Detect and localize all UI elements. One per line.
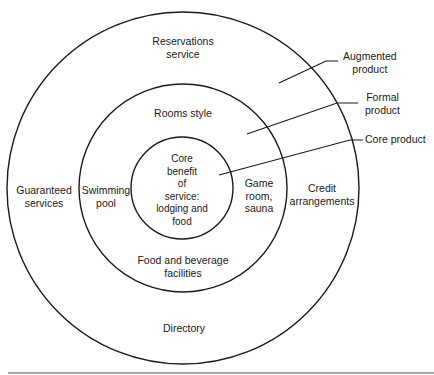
rooms-style-label: Rooms style [154, 107, 212, 120]
core-line-6: food [156, 216, 208, 229]
augmented-callout-line-1: Augmented [343, 50, 397, 63]
core-line-4: service: [156, 191, 208, 204]
core-leader-line [219, 140, 363, 175]
credit-line-1: Credit [290, 182, 355, 195]
augmented-product-callout: Augmented product [343, 50, 397, 75]
core-callout-line-1: Core product [365, 133, 426, 146]
guaranteed-line-1: Guaranteed [16, 184, 71, 197]
core-line-2: benefit [156, 166, 208, 179]
formal-callout-line-2: product [365, 104, 400, 117]
formal-product-callout: Formal product [365, 91, 400, 116]
game-line-1: Game [245, 177, 274, 190]
core-line-3: of [156, 178, 208, 191]
reservations-line-2: service [152, 48, 213, 61]
directory-label: Directory [163, 322, 205, 335]
guaranteed-line-2: services [16, 197, 71, 210]
food-line-2: facilities [137, 267, 228, 280]
reservations-line-1: Reservations [152, 35, 213, 48]
formal-callout-line-1: Formal [365, 91, 400, 104]
credit-arrangements-label: Credit arrangements [290, 182, 355, 207]
core-benefit-label: Core benefit of service: lodging and foo… [156, 153, 208, 228]
product-levels-diagram: Core benefit of service: lodging and foo… [0, 0, 434, 375]
core-product-callout: Core product [365, 133, 426, 146]
formal-leader-line [247, 103, 358, 134]
reservations-service-label: Reservations service [152, 35, 213, 60]
augmented-callout-line-2: product [343, 63, 397, 76]
core-line-1: Core [156, 153, 208, 166]
credit-line-2: arrangements [290, 195, 355, 208]
game-room-sauna-label: Game room, sauna [245, 177, 274, 215]
swimming-line-2: pool [82, 197, 130, 210]
game-line-2: room, [245, 190, 274, 203]
guaranteed-services-label: Guaranteed services [16, 184, 71, 209]
food-beverage-label: Food and beverage facilities [137, 254, 228, 279]
swimming-pool-label: Swimming pool [82, 184, 130, 209]
game-line-3: sauna [245, 202, 274, 215]
core-line-5: lodging and [156, 203, 208, 216]
food-line-1: Food and beverage [137, 254, 228, 267]
swimming-line-1: Swimming [82, 184, 130, 197]
